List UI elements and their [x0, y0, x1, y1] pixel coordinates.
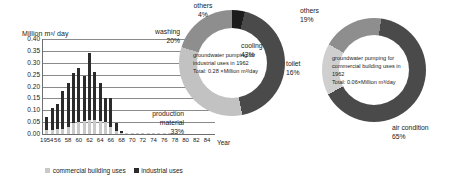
- bar-column: [67, 83, 70, 134]
- donut-label-cooling-industrial: cooling 43%: [241, 42, 285, 60]
- bar-segment-commercial: [104, 122, 107, 134]
- donut-label-toilet-commercial-pct: 16%: [286, 69, 318, 78]
- x-axis-tick-label: 62: [86, 137, 93, 143]
- bar-segment-industrial: [115, 123, 118, 131]
- donut-label-others-industrial: others 4%: [181, 2, 225, 20]
- bar-segment-commercial: [109, 127, 112, 134]
- bar-segment-industrial: [104, 98, 107, 122]
- donut-label-others-industrial-text: others: [194, 2, 213, 9]
- bar-column: [56, 104, 59, 134]
- bar-segment-commercial: [56, 129, 59, 134]
- bar-segment-commercial: [88, 120, 91, 134]
- donut-label-others-commercial: others 19%: [300, 7, 344, 25]
- donut-label-production-industrial-pct: 33%: [136, 128, 184, 137]
- legend-swatch-industrial-icon: [134, 168, 139, 173]
- donut-center-line-3: Total: 0.28 ×Million m³/day: [193, 67, 273, 75]
- donut-center-text-industrial: groundwater pumping for industrial uses …: [193, 28, 273, 98]
- legend-item-commercial: commercial building uses: [45, 167, 125, 174]
- y-axis-tick-label: 0.15: [27, 95, 40, 102]
- x-axis-tick-label: 64: [97, 137, 104, 143]
- donut-label-toilet-commercial: toilet 16%: [286, 60, 318, 78]
- bar-segment-commercial: [120, 133, 123, 134]
- gridline: [43, 134, 215, 135]
- bar-column: [99, 83, 102, 134]
- bar-segment-commercial: [125, 133, 128, 134]
- donut-label-toilet-commercial-text: toilet: [286, 60, 300, 67]
- x-axis-tick-label: 72: [140, 137, 147, 143]
- donut-label-air-commercial-text: air condition: [392, 124, 429, 131]
- y-axis-tick-label: 0.35: [27, 48, 40, 55]
- bar-segment-industrial: [109, 98, 112, 127]
- donut-center-r-line-3: 1962: [332, 70, 418, 78]
- bar-segment-commercial: [99, 121, 102, 134]
- legend-label-commercial: commercial building uses: [53, 167, 126, 174]
- donut-chart-industrial: groundwater pumping for industrial uses …: [179, 10, 285, 116]
- bar-segment-industrial: [67, 83, 70, 127]
- y-axis-tick-label: 0.00: [27, 131, 40, 138]
- bar-segment-commercial: [83, 121, 86, 134]
- bar-chart-legend: commercial building uses industrial uses: [0, 167, 228, 174]
- legend-swatch-commercial-icon: [45, 168, 50, 173]
- donut-center-text-commercial: groundwater pumping for commercial build…: [332, 35, 418, 105]
- donut-label-cooling-industrial-text: cooling: [241, 42, 263, 49]
- y-axis-tick-label: 0.20: [27, 83, 40, 90]
- legend-item-industrial: industrial uses: [134, 167, 183, 174]
- bar-segment-commercial: [115, 131, 118, 134]
- x-axis-tick-label: 56: [54, 137, 61, 143]
- bar-segment-commercial: [131, 133, 134, 134]
- bar-column: [45, 117, 48, 134]
- y-axis-tick-label: 0.05: [27, 119, 40, 126]
- y-axis-tick-label: 0.40: [27, 36, 40, 43]
- donut-label-washing-industrial-pct: 20%: [134, 37, 180, 46]
- y-axis-tick-label: 0.10: [27, 107, 40, 114]
- bar-column: [77, 68, 80, 135]
- bar-column: [83, 76, 86, 134]
- donut-center-r-line-2: commercial building uses in: [332, 62, 418, 70]
- donut-label-washing-industrial: washing 20%: [134, 28, 180, 46]
- y-axis-tick-label: 0.25: [27, 71, 40, 78]
- bar-segment-commercial: [45, 130, 48, 134]
- donut-label-air-commercial: air condition 65%: [392, 124, 454, 142]
- figure-root: Million m³/ day 0.000.050.100.150.200.25…: [0, 0, 458, 185]
- x-axis-tick-label: 76: [161, 137, 168, 143]
- x-axis-tick-label: 70: [129, 137, 136, 143]
- donut-label-others-commercial-text: others: [300, 7, 319, 14]
- y-axis-tick-label: 0.30: [27, 60, 40, 67]
- legend-label-industrial: industrial uses: [141, 167, 183, 174]
- bar-segment-industrial: [72, 73, 75, 123]
- x-axis-tick-label: 66: [107, 137, 114, 143]
- bar-column: [104, 98, 107, 134]
- bar-segment-industrial: [88, 53, 91, 120]
- donut-label-cooling-industrial-pct: 43%: [241, 51, 285, 60]
- bar-segment-industrial: [93, 72, 96, 120]
- donut-label-others-industrial-pct: 4%: [181, 11, 225, 20]
- donut-label-others-commercial-pct: 19%: [300, 16, 344, 25]
- donut-label-air-commercial-pct: 65%: [392, 133, 454, 142]
- bar-segment-commercial: [93, 120, 96, 134]
- donut-center-r-line-1: groundwater pumping for: [332, 54, 418, 62]
- bar-segment-industrial: [83, 76, 86, 121]
- bar-column: [88, 53, 91, 134]
- donut-center-line-2: industrial uses in 1962: [193, 59, 273, 67]
- donut-center-r-line-4: Total: 0.06×Million m³/day: [332, 78, 418, 86]
- bar-column: [131, 133, 134, 134]
- bar-segment-commercial: [51, 130, 54, 134]
- x-axis-tick-label: 68: [118, 137, 125, 143]
- bar-segment-commercial: [61, 129, 64, 134]
- bar-column: [115, 123, 118, 134]
- x-axis-tick-label: 84: [204, 137, 211, 143]
- bar-column: [61, 91, 64, 134]
- x-axis-tick-label: 58: [65, 137, 72, 143]
- bar-column: [125, 133, 128, 134]
- bar-segment-industrial: [45, 117, 48, 131]
- bar-segment-commercial: [77, 122, 80, 134]
- bar-segment-commercial: [72, 123, 75, 134]
- bar-column: [51, 108, 54, 134]
- x-axis-tick-label: 82: [193, 137, 200, 143]
- bar-column: [93, 72, 96, 134]
- donut-label-production-line-1: production: [152, 110, 184, 117]
- x-axis-tick-label: 1954: [40, 137, 53, 143]
- donut-label-washing-industrial-text: washing: [155, 28, 180, 35]
- bar-segment-industrial: [77, 68, 80, 123]
- bar-column: [72, 73, 75, 134]
